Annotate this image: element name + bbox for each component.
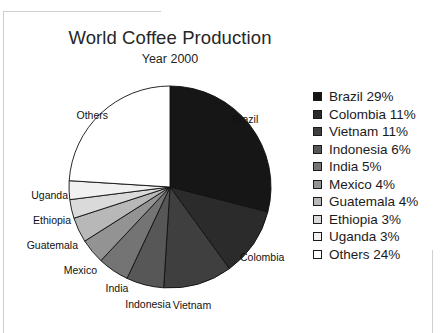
- legend-item[interactable]: Uganda 3%: [313, 228, 418, 246]
- chart-legend: Brazil 29%Colombia 11%Vietnam 11%Indones…: [313, 88, 418, 263]
- legend-label: Ethiopia 3%: [329, 213, 401, 227]
- pie-label-guatemala: Guatemala: [27, 240, 78, 251]
- legend-swatch-icon: [313, 215, 322, 224]
- legend-item[interactable]: Brazil 29%: [313, 88, 418, 106]
- pie-label-indonesia: Indonesia: [125, 299, 171, 310]
- legend-label: Mexico 4%: [329, 178, 395, 192]
- legend-swatch-icon: [313, 92, 322, 101]
- legend-label: Guatemala 4%: [329, 195, 418, 209]
- chart-page: World Coffee Production Year 2000 Brazil…: [0, 0, 441, 333]
- legend-swatch-icon: [313, 145, 322, 154]
- pie-label-india: India: [106, 283, 129, 294]
- legend-label: Indonesia 6%: [329, 143, 411, 157]
- legend-item[interactable]: Indonesia 6%: [313, 141, 418, 159]
- legend-swatch-icon: [313, 180, 322, 189]
- pie-slice-others[interactable]: [69, 86, 170, 187]
- pie-label-brazil: Brazil: [232, 114, 258, 125]
- legend-label: Colombia 11%: [329, 108, 416, 122]
- legend-swatch-icon: [313, 250, 322, 259]
- legend-item[interactable]: Mexico 4%: [313, 176, 418, 194]
- legend-swatch-icon: [313, 197, 322, 206]
- legend-item[interactable]: Ethiopia 3%: [313, 211, 418, 229]
- legend-label: India 5%: [329, 160, 382, 174]
- legend-item[interactable]: Vietnam 11%: [313, 123, 418, 141]
- legend-item[interactable]: India 5%: [313, 158, 418, 176]
- legend-label: Others 24%: [329, 248, 400, 262]
- legend-swatch-icon: [313, 162, 322, 171]
- pie-label-uganda: Uganda: [31, 190, 68, 201]
- pie-label-mexico: Mexico: [64, 265, 97, 276]
- pie-label-others: Others: [76, 110, 108, 121]
- legend-swatch-icon: [313, 232, 322, 241]
- legend-item[interactable]: Colombia 11%: [313, 106, 418, 124]
- pie-label-vietnam: Vietnam: [173, 300, 211, 311]
- legend-label: Uganda 3%: [329, 230, 400, 244]
- legend-swatch-icon: [313, 127, 322, 136]
- pie-label-colombia: Colombia: [240, 252, 284, 263]
- legend-label: Brazil 29%: [329, 90, 394, 104]
- legend-label: Vietnam 11%: [329, 125, 408, 139]
- legend-item[interactable]: Others 24%: [313, 246, 418, 264]
- legend-item[interactable]: Guatemala 4%: [313, 193, 418, 211]
- legend-swatch-icon: [313, 110, 322, 119]
- pie-label-ethiopia: Ethiopia: [33, 215, 71, 226]
